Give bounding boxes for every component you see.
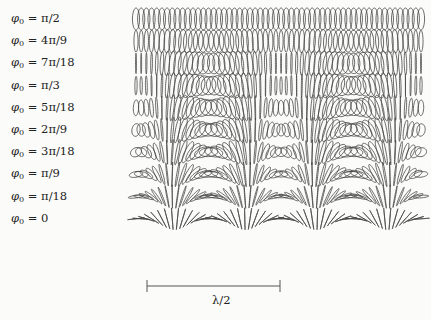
ellipse-row	[128, 185, 428, 209]
ellipse-row	[134, 29, 423, 53]
scale-bar-label: λ/2	[212, 293, 230, 307]
ellipse-row	[135, 73, 422, 99]
ellipse-row	[128, 208, 430, 230]
ellipse-row	[136, 51, 422, 76]
ellipse-row	[133, 95, 423, 121]
scale-bar	[147, 280, 280, 292]
polarization-ellipse-plot	[0, 0, 431, 320]
ellipse-row	[132, 8, 424, 30]
ellipse-row	[129, 162, 427, 187]
